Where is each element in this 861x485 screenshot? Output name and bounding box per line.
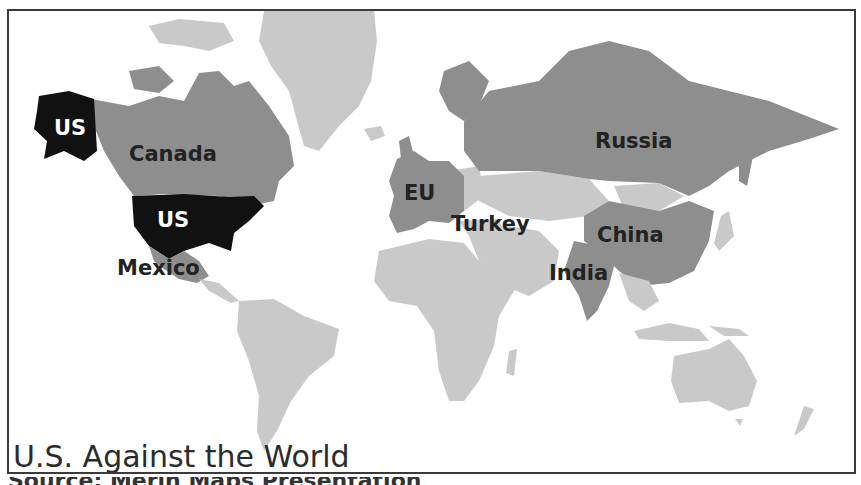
label-china: China [597,223,664,247]
label-canada: Canada [129,142,217,166]
map-title: U.S. Against the World [13,439,350,474]
label-mexico: Mexico [117,256,200,280]
central-america [199,279,239,303]
world-map-frame: US Canada US Mexico EU Turkey Russia Chi… [7,9,856,474]
label-india: India [549,261,608,285]
world-map [9,11,854,472]
australia [671,339,757,411]
south-america [237,299,339,451]
tasmania [735,419,743,426]
canada [91,71,294,206]
uk [399,136,414,159]
japan [714,211,734,251]
arctic-islands [149,19,234,51]
label-us-alaska: US [54,116,86,140]
label-us-mainland: US [157,208,189,232]
new-zealand [794,406,814,436]
canada-islands [129,66,174,93]
label-russia: Russia [595,129,673,153]
label-eu: EU [404,181,435,205]
kamchatka [739,146,754,186]
iceland [364,126,385,141]
indonesia [634,323,709,341]
label-turkey: Turkey [451,212,530,236]
footer-text-partial: Source: Merin Maps Presentation [8,477,421,485]
madagascar [506,349,517,376]
papua [709,326,749,336]
